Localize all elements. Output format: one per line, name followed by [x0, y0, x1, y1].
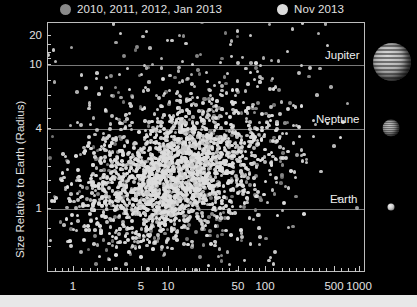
- scatter-point: [87, 228, 91, 232]
- scatter-point: [294, 195, 297, 198]
- scatter-point: [246, 176, 250, 180]
- scatter-point: [79, 153, 82, 156]
- x-axis-tick: [156, 268, 157, 272]
- scatter-point: [119, 32, 122, 35]
- scatter-point: [277, 59, 280, 62]
- scatter-point: [274, 85, 277, 88]
- scatter-point: [224, 229, 228, 233]
- scatter-point: [112, 23, 115, 26]
- scatter-point: [227, 163, 231, 167]
- scatter-point: [119, 96, 123, 100]
- scatter-point: [148, 46, 152, 50]
- scatter-point: [220, 89, 223, 92]
- scatter-point: [190, 210, 193, 213]
- scatter-point: [105, 220, 109, 224]
- scatter-point: [186, 77, 189, 80]
- scatter-point: [291, 27, 294, 30]
- scatter-point: [91, 202, 95, 206]
- scatter-point: [256, 101, 260, 105]
- scatter-point: [240, 135, 244, 139]
- scatter-point: [157, 236, 161, 240]
- scatter-point: [59, 177, 63, 181]
- scatter-point: [66, 168, 69, 171]
- scatter-point: [178, 81, 182, 85]
- scatter-point: [170, 120, 174, 124]
- scatter-point: [158, 148, 162, 152]
- scatter-point: [149, 132, 153, 136]
- scatter-point: [246, 111, 249, 114]
- scatter-point: [217, 255, 220, 258]
- scatter-point: [127, 250, 131, 254]
- scatter-point: [260, 129, 263, 132]
- scatter-point: [249, 71, 252, 74]
- scatter-point: [198, 255, 202, 259]
- scatter-point: [191, 243, 195, 247]
- y-axis-tick: [47, 44, 51, 45]
- scatter-point: [131, 175, 135, 179]
- scatter-point: [141, 174, 145, 178]
- scatter-point: [102, 132, 106, 136]
- scatter-point: [244, 89, 248, 93]
- scatter-point: [161, 116, 164, 119]
- scatter-point: [161, 77, 165, 81]
- scatter-point: [274, 129, 277, 132]
- scatter-point: [148, 240, 151, 243]
- scatter-point: [93, 228, 97, 232]
- scatter-point: [162, 214, 165, 217]
- scatter-point: [178, 219, 181, 222]
- scatter-point: [64, 188, 67, 191]
- annotation-jupiter: Jupiter: [325, 49, 360, 61]
- scatter-point: [187, 111, 190, 114]
- scatter-point: [79, 123, 83, 127]
- scatter-point: [240, 138, 243, 141]
- scatter-point: [118, 73, 121, 76]
- scatter-point: [230, 195, 233, 198]
- scatter-point: [112, 175, 116, 179]
- scatter-point: [216, 234, 220, 238]
- scatter-point: [258, 243, 261, 246]
- scatter-point: [185, 99, 189, 103]
- scatter-point: [219, 61, 222, 64]
- scatter-point: [180, 205, 184, 209]
- scatter-point: [111, 244, 114, 247]
- y-axis-tick-label: 20: [16, 29, 42, 42]
- scatter-point: [282, 201, 286, 205]
- x-axis-tick: [252, 268, 253, 272]
- x-axis-tick: [104, 268, 105, 272]
- scatter-point: [259, 64, 262, 67]
- scatter-point: [132, 142, 136, 146]
- scatter-point: [102, 173, 106, 177]
- scatter-point: [130, 121, 133, 124]
- x-axis-tick: [296, 268, 297, 272]
- scatter-point: [230, 200, 234, 204]
- scatter-point: [280, 173, 284, 177]
- scatter-point: [48, 156, 52, 160]
- scatter-point: [176, 166, 179, 169]
- scatter-point: [329, 85, 332, 88]
- scatter-point: [265, 126, 268, 129]
- y-axis-tick: [47, 148, 51, 149]
- scatter-point: [201, 111, 205, 115]
- scatter-point: [51, 135, 54, 138]
- scatter-point: [118, 149, 122, 153]
- scatter-point: [232, 189, 235, 192]
- scatter-point: [220, 84, 224, 88]
- scatter-point: [253, 188, 256, 191]
- scatter-point: [222, 195, 226, 199]
- scatter-point: [177, 211, 181, 215]
- scatter-point: [148, 215, 152, 219]
- scatter-point: [162, 94, 165, 97]
- y-axis-tick: [47, 64, 51, 65]
- scatter-point: [70, 182, 73, 185]
- x-axis-tick-label: 50: [232, 280, 245, 293]
- scatter-point: [145, 30, 148, 33]
- scatter-point: [145, 66, 148, 69]
- x-axis-tick: [341, 268, 342, 272]
- scatter-point: [177, 69, 181, 73]
- scatter-point: [301, 23, 304, 25]
- scatter-point: [298, 135, 301, 138]
- scatter-point: [264, 237, 267, 240]
- x-axis-tick: [319, 268, 320, 272]
- scatter-point: [156, 233, 160, 237]
- scatter-point: [167, 174, 170, 177]
